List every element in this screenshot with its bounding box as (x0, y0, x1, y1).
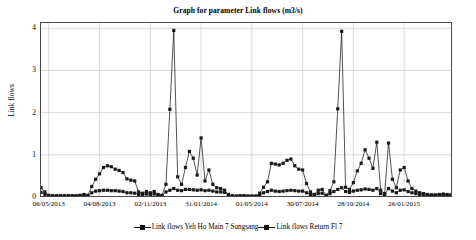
data-point-marker (94, 178, 97, 181)
data-point-marker (309, 193, 312, 196)
data-point-marker (110, 189, 113, 192)
data-point-marker (200, 188, 203, 191)
chart-title: Graph for parameter Link flows (m3/s) (0, 6, 476, 16)
y-tick-label: 3 (22, 66, 36, 74)
data-point-marker (293, 189, 296, 192)
x-tick-label: 02/11/2013 (126, 200, 174, 208)
data-point-marker (344, 186, 347, 189)
data-point-marker (196, 173, 199, 176)
data-point-marker (168, 189, 171, 192)
data-point-marker (399, 168, 402, 171)
data-point-marker (176, 189, 179, 192)
legend-item-2[interactable]: Link flows Return Fl 7 (258, 222, 342, 232)
x-tick-label: 04/08/2013 (76, 200, 124, 208)
plot-area (40, 22, 452, 197)
data-point-marker (352, 190, 355, 193)
data-point-marker (289, 189, 292, 192)
data-point-marker (207, 168, 210, 171)
data-point-marker (379, 192, 382, 195)
data-point-marker (391, 178, 394, 181)
data-point-marker (406, 190, 409, 193)
data-point-marker (223, 191, 226, 194)
data-point-marker (352, 181, 355, 184)
data-point-marker (106, 189, 109, 192)
data-point-marker (317, 192, 320, 195)
data-point-marker (278, 190, 281, 193)
data-point-marker (121, 171, 124, 174)
data-point-marker (43, 193, 46, 196)
data-point-marker (137, 193, 140, 196)
data-point-marker (188, 150, 191, 153)
data-point-marker (336, 188, 339, 191)
data-point-marker (282, 190, 285, 193)
data-point-marker (207, 189, 210, 192)
data-point-marker (364, 187, 367, 190)
data-point-marker (172, 187, 175, 190)
x-tick-label: 28/10/2014 (329, 200, 377, 208)
data-point-marker (98, 189, 101, 192)
data-point-marker (133, 192, 136, 195)
data-point-marker (153, 192, 156, 195)
data-point-marker (121, 190, 124, 193)
data-point-marker (176, 175, 179, 178)
chart-legend: Link flows Yeh Ho Main 7 SungsangLink fl… (0, 222, 476, 232)
data-point-marker (395, 186, 398, 189)
data-point-marker (332, 190, 335, 193)
data-point-marker (297, 190, 300, 193)
data-point-marker (395, 191, 398, 194)
data-point-marker (399, 189, 402, 192)
data-point-marker (360, 188, 363, 191)
data-point-marker (196, 189, 199, 192)
data-point-marker (118, 190, 121, 193)
data-point-marker (106, 164, 109, 167)
data-point-marker (172, 29, 175, 32)
data-point-marker (90, 191, 93, 194)
data-point-marker (414, 192, 417, 195)
data-point-marker (328, 189, 331, 192)
legend-item-1[interactable]: Link flows Yeh Ho Main 7 Sungsang (134, 222, 259, 232)
data-point-marker (321, 188, 324, 191)
data-point-marker (215, 186, 218, 189)
data-point-marker (328, 192, 331, 195)
data-point-marker (125, 177, 128, 180)
data-point-marker (211, 190, 214, 193)
y-tick-label: 1 (22, 151, 36, 159)
data-point-marker (219, 187, 222, 190)
data-point-marker (164, 183, 167, 186)
data-point-marker (215, 190, 218, 193)
data-point-marker (410, 191, 413, 194)
data-point-marker (266, 180, 269, 183)
data-point-marker (348, 191, 351, 194)
data-point-marker (266, 190, 269, 193)
data-point-marker (180, 183, 183, 186)
data-point-marker (200, 136, 203, 139)
data-point-marker (364, 148, 367, 151)
legend-marker-icon (134, 224, 151, 231)
data-point-marker (379, 189, 382, 192)
data-point-marker (375, 141, 378, 144)
data-point-marker (301, 168, 304, 171)
data-point-marker (344, 190, 347, 193)
data-point-marker (114, 168, 117, 171)
data-point-marker (110, 165, 113, 168)
x-tick-label: 06/05/2013 (25, 200, 73, 208)
data-point-marker (367, 188, 370, 191)
data-point-marker (184, 188, 187, 191)
data-point-marker (371, 189, 374, 192)
plot-border (41, 23, 452, 197)
data-point-marker (168, 108, 171, 111)
data-point-marker (188, 188, 191, 191)
data-point-marker (356, 169, 359, 172)
data-point-marker (356, 189, 359, 192)
series-line (41, 30, 451, 196)
data-point-marker (129, 179, 132, 182)
data-point-marker (348, 188, 351, 191)
plot-svg (40, 22, 452, 197)
data-point-marker (211, 183, 214, 186)
data-point-marker (90, 185, 93, 188)
data-point-marker (94, 190, 97, 193)
data-point-marker (125, 191, 128, 194)
y-tick-label: 4 (22, 24, 36, 32)
data-point-marker (282, 162, 285, 165)
data-point-marker (403, 188, 406, 191)
